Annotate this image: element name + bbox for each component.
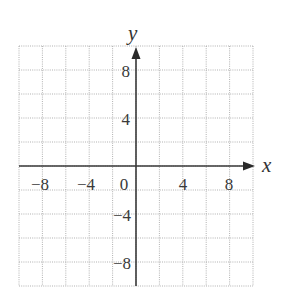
y-axis-arrow-icon [132,47,141,59]
y-tick-label: −4 [113,206,132,225]
x-tick-label: 0 [120,175,129,194]
x-tick-label: −4 [77,175,96,194]
x-tick-label: −8 [31,175,49,194]
x-tick-label: 8 [225,175,234,194]
y-tick-label: −8 [113,254,131,273]
x-axis [19,162,255,171]
x-axis-label: x [261,153,272,177]
coordinate-plane: x y −8 −4 0 4 8 8 4 −4 −8 [0,0,283,298]
x-tick-label: 4 [179,175,188,194]
y-tick-label: 4 [122,110,131,129]
y-axis-label: y [126,21,138,45]
y-tick-label: 8 [122,62,131,81]
